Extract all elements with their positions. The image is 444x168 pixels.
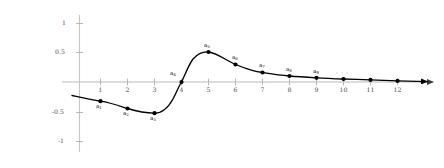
point-label-a2-sub: 2 <box>126 112 129 117</box>
point-label-a7: a7 <box>259 63 265 69</box>
point-label-a1: a1 <box>96 104 102 110</box>
y-tick-label-neg1: -1 <box>58 138 64 144</box>
x-tick-label-6: 6 <box>234 87 238 93</box>
continuation-ellipsis: · · · <box>336 70 349 76</box>
x-tick-label-8: 8 <box>288 87 292 93</box>
data-point-a8 <box>287 74 291 78</box>
point-label-a1-sub: 1 <box>99 105 102 110</box>
sequence-plot-figure: 1 0.5 -0.5 -1 1 2 3 4 5 6 7 8 9 10 11 12… <box>0 0 444 168</box>
point-label-a5-sub: 5 <box>207 44 210 49</box>
sequence-curve <box>72 52 427 113</box>
x-tick-label-3: 3 <box>153 87 157 93</box>
data-point-a11 <box>368 78 372 82</box>
point-label-a9-sub: 9 <box>316 70 319 75</box>
x-tick-label-2: 2 <box>126 87 130 93</box>
point-label-a7-sub: 7 <box>262 64 265 69</box>
data-point-a9 <box>314 76 318 80</box>
x-tick-label-4: 4 <box>180 87 184 93</box>
data-point-a7 <box>260 70 264 74</box>
point-label-a6: a6 <box>232 55 238 61</box>
point-label-a3: a3 <box>150 116 156 122</box>
data-point-a4 <box>179 80 183 84</box>
point-label-a3-sub: 3 <box>153 117 156 122</box>
x-tick-label-1: 1 <box>99 87 103 93</box>
x-tick-label-5: 5 <box>207 87 211 93</box>
point-label-a8: a8 <box>286 67 292 73</box>
data-point-a12 <box>395 79 399 83</box>
point-label-a2: a2 <box>123 111 129 117</box>
x-tick-label-10: 10 <box>340 87 348 93</box>
plot-canvas <box>0 0 444 168</box>
point-label-a4-sub: 4 <box>173 72 176 77</box>
x-tick-label-9: 9 <box>315 87 319 93</box>
y-tick-label-0p5: 0.5 <box>55 49 65 55</box>
x-tick-label-7: 7 <box>261 87 265 93</box>
data-point-a10 <box>341 77 345 81</box>
point-label-a5: a5 <box>204 43 210 49</box>
data-points <box>98 50 399 115</box>
x-tick-label-12: 12 <box>394 87 402 93</box>
point-label-a6-sub: 6 <box>235 56 238 61</box>
data-point-a5 <box>206 50 210 54</box>
point-label-a8-sub: 8 <box>289 68 292 73</box>
x-tick-label-11: 11 <box>367 87 375 93</box>
point-label-a9: a9 <box>313 69 319 75</box>
y-tick-label-1: 1 <box>62 20 66 26</box>
data-point-a6 <box>233 62 237 66</box>
point-label-a4: a4 <box>170 71 176 77</box>
y-tick-label-neg0p5: -0.5 <box>52 109 64 115</box>
axes-group <box>62 15 433 152</box>
